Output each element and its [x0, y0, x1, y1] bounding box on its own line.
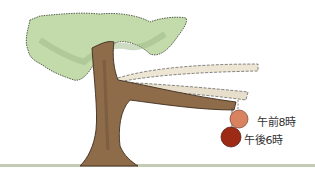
label-evening: 午後6時 [244, 131, 283, 147]
evening-fruit [221, 127, 241, 147]
morning-fruit [230, 110, 248, 128]
tree-trunk [80, 41, 236, 166]
ground [0, 164, 315, 167]
tree-drawing [0, 0, 315, 179]
label-morning: 午前8時 [257, 113, 296, 129]
tree-illustration: 午前8時 午後6時 [0, 0, 315, 179]
